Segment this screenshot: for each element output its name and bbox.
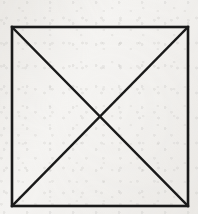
diagonals-group xyxy=(12,27,188,206)
figure-canvas: Square with both diagonals A hand-drawn/… xyxy=(0,0,198,214)
square-with-diagonals-drawing: Square with both diagonals A hand-drawn/… xyxy=(0,0,198,214)
